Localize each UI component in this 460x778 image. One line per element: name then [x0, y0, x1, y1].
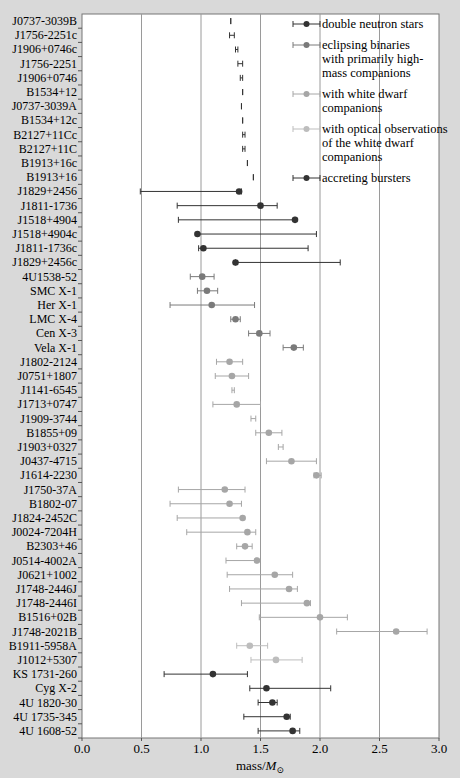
y-tick-label: Cen X-3 [36, 326, 77, 340]
y-tick-label: J1906+0746c [12, 42, 77, 56]
y-tick-label: Her X-1 [37, 298, 77, 312]
x-tick-label: 0.0 [74, 741, 90, 756]
legend-label: eclipsing binaries [322, 38, 410, 52]
x-tick-label: 0.5 [133, 741, 149, 756]
y-tick-label: J1756-2251c [15, 28, 77, 42]
y-tick-label: J0621+1002 [18, 568, 77, 582]
x-tick-label: 1.0 [193, 741, 209, 756]
y-tick-label: J1811-1736c [15, 241, 77, 255]
y-tick-label: B2303+46 [26, 539, 77, 553]
legend-label: of the white dwarf [322, 136, 415, 150]
y-tick-label: J1748-2446I [16, 596, 77, 610]
y-tick-label: B1913+16 [26, 170, 77, 184]
y-tick-label: 4U 1735-345 [13, 710, 77, 724]
legend-label: companions [322, 150, 383, 164]
y-tick-label: J0751+1807 [18, 369, 77, 383]
y-tick-label: B1516+02B [18, 610, 77, 624]
legend-label: with white dwarf [322, 87, 408, 101]
y-axis-labels: J0737-3039BJ1756-2251cJ1906+0746cJ1756-2… [9, 14, 82, 738]
x-tick-label: 3.0 [431, 741, 447, 756]
y-tick-label: J1802-2124 [20, 355, 77, 369]
x-tick-label: 2.0 [312, 741, 328, 756]
y-tick-label: B2127+11C [19, 142, 77, 156]
y-tick-label: J1713+0747 [18, 397, 77, 411]
legend-label: with optical observations [322, 122, 448, 136]
y-tick-label: J0737-3039B [12, 14, 77, 28]
y-tick-label: B1913+16c [21, 156, 77, 170]
y-tick-label: J0514-4002A [12, 554, 78, 568]
neutron-star-mass-chart: J0737-3039BJ1756-2251cJ1906+0746cJ1756-2… [0, 0, 460, 778]
y-tick-label: B1855+09 [26, 426, 77, 440]
x-tick-label: 1.5 [252, 741, 268, 756]
y-tick-label: J1829+2456 [18, 184, 77, 198]
x-axis: 0.00.51.01.52.02.53.0 [74, 738, 447, 756]
y-tick-label: J1909-3744 [20, 412, 77, 426]
y-tick-label: J0737-3039A [12, 99, 78, 113]
y-tick-label: J1748-2446J [16, 582, 78, 596]
y-tick-label: B1534+12c [21, 113, 77, 127]
y-tick-label: J1829+2456c [12, 255, 77, 269]
y-tick-label: 4U 1608-52 [19, 724, 77, 738]
y-tick-label: Vela X-1 [34, 341, 77, 355]
y-tick-label: J1811-1736 [21, 199, 77, 213]
y-tick-label: SMC X-1 [30, 284, 77, 298]
y-tick-label: B1802-07 [29, 497, 77, 511]
y-tick-label: J1518+4904 [18, 213, 77, 227]
y-tick-label: 4U 1820-30 [19, 696, 77, 710]
legend-label: companions [322, 101, 383, 115]
y-tick-label: B1911-5958A [9, 639, 78, 653]
y-tick-label: J1824-2452C [12, 511, 77, 525]
y-tick-label: J1756-2251 [20, 57, 77, 71]
legend-label: accreting bursters [322, 171, 411, 185]
y-tick-label: J1748-2021B [12, 625, 77, 639]
y-tick-label: J1141-6545 [21, 383, 77, 397]
y-tick-label: J1518+4904c [12, 227, 77, 241]
y-tick-label: B1534+12 [26, 85, 77, 99]
legend-label: with primarily high- [322, 52, 423, 66]
x-axis-label: mass/M⊙ [236, 758, 284, 775]
y-tick-label: J1012+5307 [18, 653, 77, 667]
y-tick-label: KS 1731-260 [13, 667, 77, 681]
y-tick-label: J0024-7204H [12, 525, 78, 539]
y-tick-label: J0437-4715 [20, 454, 77, 468]
legend-label: mass companions [322, 66, 411, 80]
y-tick-label: B2127+11Cc [13, 128, 77, 142]
y-tick-label: J1903+0327 [18, 440, 77, 454]
y-tick-label: 4U1538-52 [22, 270, 77, 284]
legend-label: double neutron stars [322, 17, 424, 31]
y-tick-label: J1750-37A [24, 483, 78, 497]
y-tick-label: J1614-2230 [20, 468, 77, 482]
x-tick-label: 2.5 [371, 741, 387, 756]
y-tick-label: Cyg X-2 [35, 681, 77, 695]
y-tick-label: J1906+0746 [18, 71, 77, 85]
y-tick-label: LMC X-4 [29, 312, 77, 326]
